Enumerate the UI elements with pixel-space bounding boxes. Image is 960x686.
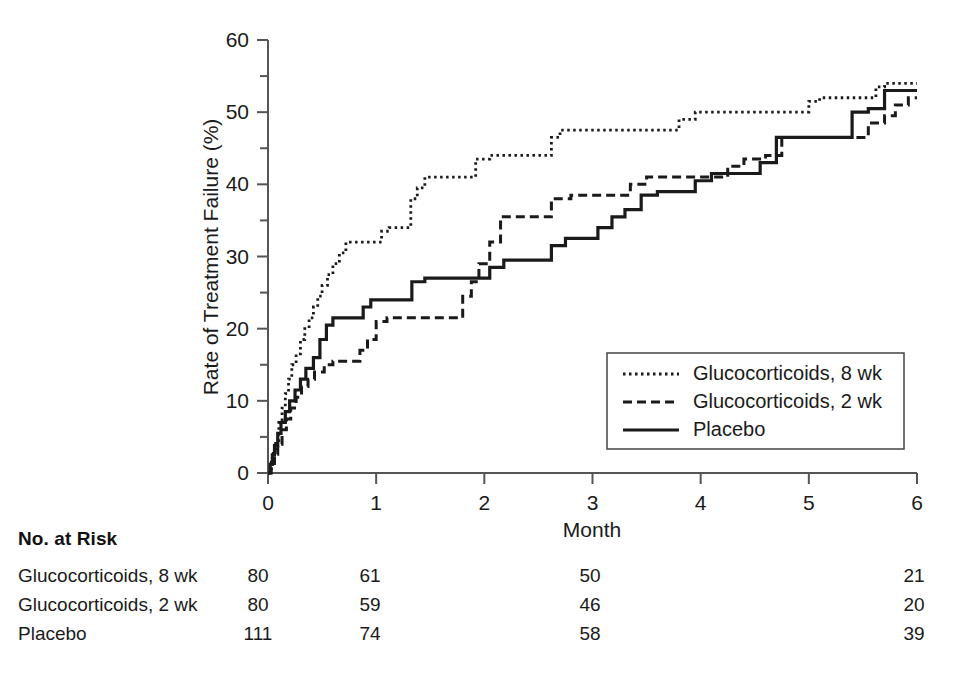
x-tick-label: 6 bbox=[911, 491, 923, 514]
survival-curve-figure: 0102030405060 0123456 Rate of Treatment … bbox=[0, 0, 960, 686]
x-tick-label: 3 bbox=[587, 491, 599, 514]
risk-value: 20 bbox=[884, 594, 944, 616]
legend-label-2: Glucocorticoids, 2 wk bbox=[693, 390, 883, 412]
table-row: Placebo 111 74 58 39 bbox=[0, 623, 960, 652]
risk-row-label: Placebo bbox=[18, 623, 87, 645]
x-tick-label: 2 bbox=[478, 491, 490, 514]
risk-value: 39 bbox=[884, 623, 944, 645]
x-tick-label: 1 bbox=[370, 491, 382, 514]
risk-value: 80 bbox=[228, 594, 288, 616]
risk-row-label: Glucocorticoids, 8 wk bbox=[18, 565, 198, 587]
y-tick-label: 20 bbox=[226, 317, 249, 340]
legend-label-3: Placebo bbox=[693, 418, 765, 440]
y-tick-label: 40 bbox=[226, 172, 249, 195]
table-row: Glucocorticoids, 8 wk 80 61 50 21 bbox=[0, 565, 960, 594]
risk-row-label: Glucocorticoids, 2 wk bbox=[18, 594, 198, 616]
risk-value: 74 bbox=[340, 623, 400, 645]
y-tick-label: 50 bbox=[226, 100, 249, 123]
risk-value: 46 bbox=[560, 594, 620, 616]
y-tick-label: 0 bbox=[237, 461, 249, 484]
x-axis-tick-labels: 0123456 bbox=[262, 491, 923, 514]
risk-value: 61 bbox=[340, 565, 400, 587]
risk-value: 80 bbox=[228, 565, 288, 587]
no-at-risk-table: No. at Risk Glucocorticoids, 8 wk 80 61 … bbox=[0, 520, 960, 686]
x-axis-ticks bbox=[268, 473, 917, 484]
no-at-risk-title: No. at Risk bbox=[18, 528, 117, 550]
y-axis-ticks bbox=[257, 40, 268, 473]
y-tick-label: 60 bbox=[226, 28, 249, 51]
risk-value: 21 bbox=[884, 565, 944, 587]
legend-label-1: Glucocorticoids, 8 wk bbox=[693, 362, 883, 384]
x-tick-label: 0 bbox=[262, 491, 274, 514]
risk-value: 58 bbox=[560, 623, 620, 645]
y-tick-label: 10 bbox=[226, 389, 249, 412]
x-tick-label: 4 bbox=[695, 491, 707, 514]
risk-value: 50 bbox=[560, 565, 620, 587]
y-tick-label: 30 bbox=[226, 245, 249, 268]
legend: Glucocorticoids, 8 wkGlucocorticoids, 2 … bbox=[607, 353, 904, 449]
y-axis-tick-labels: 0102030405060 bbox=[226, 28, 249, 484]
table-row: Glucocorticoids, 2 wk 80 59 46 20 bbox=[0, 594, 960, 623]
y-axis-title: Rate of Treatment Failure (%) bbox=[199, 119, 222, 396]
x-tick-label: 5 bbox=[803, 491, 815, 514]
risk-value: 111 bbox=[228, 623, 288, 645]
risk-value: 59 bbox=[340, 594, 400, 616]
